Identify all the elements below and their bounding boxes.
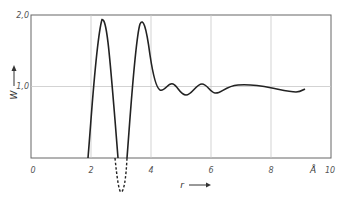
tick-x-4: 4 — [148, 166, 153, 175]
tick-x-6: 6 — [208, 166, 213, 175]
tick-x-2: 2 — [88, 166, 93, 175]
x-axis-arrow-icon — [189, 183, 211, 188]
curve-negative-dip — [115, 158, 127, 192]
x-axis-label: r — [180, 180, 185, 190]
curve-positive-left — [88, 19, 118, 158]
curve-positive-right — [127, 22, 305, 158]
x-unit-label: Å — [309, 164, 316, 175]
tick-y-1: 1,0 — [16, 82, 29, 91]
chart-canvas: 0 2 4 6 8 10 2,0 1,0 Å r W — [0, 0, 340, 197]
tick-x-10: 10 — [325, 166, 335, 175]
tick-x-0: 0 — [30, 166, 35, 175]
grid-lines — [31, 15, 331, 158]
y-axis-label: W — [9, 89, 19, 99]
tick-x-8: 8 — [268, 166, 273, 175]
tick-y-2: 2,0 — [16, 11, 29, 20]
